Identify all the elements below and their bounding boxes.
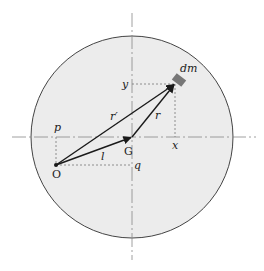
g-label: G: [124, 145, 133, 158]
o-label: O: [52, 168, 61, 181]
r-prime-label: r′: [110, 110, 118, 123]
y-label: y: [121, 78, 129, 91]
origin-point: [54, 163, 58, 167]
rigid-body-diagram: dm y x p q r′ r l G O: [0, 0, 264, 271]
l-label: l: [101, 150, 105, 163]
dm-label: dm: [180, 62, 197, 75]
p-label: p: [54, 121, 61, 134]
r-label: r: [155, 109, 161, 122]
x-label: x: [172, 139, 179, 152]
q-label: q: [134, 159, 141, 172]
